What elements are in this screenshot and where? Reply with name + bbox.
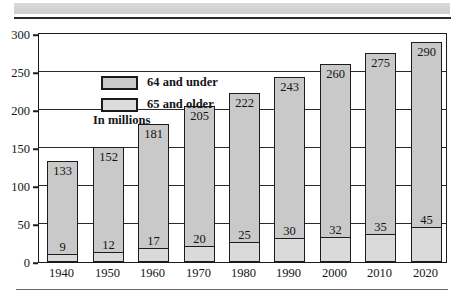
bar-value-older-2020: 45 bbox=[411, 214, 442, 227]
bar-segment-older-2000[interactable] bbox=[320, 238, 351, 262]
legend-swatch-icon-64-and-under bbox=[101, 76, 138, 90]
x-tick-label-2010: 2010 bbox=[357, 266, 403, 280]
bar-segment-under-1960[interactable]: 181 bbox=[138, 124, 169, 249]
bar-segment-older-1990[interactable] bbox=[274, 239, 305, 262]
bar-value-older-2000: 32 bbox=[320, 224, 351, 237]
legend-units-note: In millions bbox=[93, 113, 150, 128]
chart-plot-area: 1339152121811720520222252433026032275352… bbox=[38, 33, 447, 263]
bar-1940[interactable]: 1339 bbox=[47, 161, 78, 262]
bar-segment-under-2000[interactable]: 260 bbox=[320, 64, 351, 237]
bar-segment-older-1940[interactable] bbox=[47, 255, 78, 262]
bar-segment-under-2020[interactable]: 290 bbox=[411, 42, 442, 228]
bar-2020[interactable]: 29045 bbox=[411, 42, 442, 262]
bar-1980[interactable]: 22225 bbox=[229, 93, 260, 262]
bar-value-older-1960: 17 bbox=[138, 235, 169, 248]
bar-segment-under-2010[interactable]: 275 bbox=[365, 53, 396, 235]
bar-2000[interactable]: 26032 bbox=[320, 64, 351, 262]
legend-item-64-and-under: 64 and under bbox=[101, 74, 281, 94]
bar-value-older-1990: 30 bbox=[274, 225, 305, 238]
bar-segment-older-2020[interactable] bbox=[411, 228, 442, 262]
bar-1960[interactable]: 18117 bbox=[138, 124, 169, 262]
y-tick-label-250: 250 bbox=[0, 66, 30, 81]
y-axis: 050100150200250300 bbox=[0, 33, 38, 264]
bar-segment-older-1970[interactable] bbox=[184, 247, 215, 262]
x-tick-label-2020: 2020 bbox=[403, 266, 449, 280]
bar-segment-under-1950[interactable]: 152 bbox=[93, 147, 124, 253]
y-tick-label-50: 50 bbox=[0, 218, 30, 233]
y-tick-label-0: 0 bbox=[0, 256, 30, 271]
x-tick-label-1970: 1970 bbox=[176, 266, 222, 280]
bar-segment-older-2010[interactable] bbox=[365, 235, 396, 262]
bar-segment-older-1950[interactable] bbox=[93, 253, 124, 262]
bar-segment-under-1970[interactable]: 205 bbox=[184, 106, 215, 247]
y-tick-label-200: 200 bbox=[0, 104, 30, 119]
bar-1950[interactable]: 15212 bbox=[93, 146, 124, 262]
bar-value-total-2010: 275 bbox=[366, 57, 395, 70]
header-rule bbox=[14, 17, 451, 19]
legend-label-65-and-older: 65 and older bbox=[147, 97, 214, 112]
bar-2010[interactable]: 27535 bbox=[365, 53, 396, 262]
bar-segment-older-1960[interactable] bbox=[138, 249, 169, 262]
bar-value-older-1940: 9 bbox=[47, 241, 78, 254]
bar-value-total-1950: 152 bbox=[94, 151, 123, 164]
x-tick-label-1980: 1980 bbox=[221, 266, 267, 280]
header-decorative-strip bbox=[14, 3, 450, 14]
bar-value-total-1940: 133 bbox=[48, 165, 77, 178]
x-tick-label-1960: 1960 bbox=[130, 266, 176, 280]
bar-value-total-2020: 290 bbox=[412, 46, 441, 59]
bar-value-total-1960: 181 bbox=[139, 128, 168, 141]
bar-value-older-1980: 25 bbox=[229, 229, 260, 242]
bar-value-total-2000: 260 bbox=[321, 68, 350, 81]
bar-value-older-1950: 12 bbox=[93, 239, 124, 252]
bar-1970[interactable]: 20520 bbox=[184, 106, 215, 262]
y-tick-label-100: 100 bbox=[0, 180, 30, 195]
bar-segment-older-1980[interactable] bbox=[229, 243, 260, 262]
x-tick-label-1940: 1940 bbox=[39, 266, 85, 280]
y-tick-label-150: 150 bbox=[0, 142, 30, 157]
chart-legend: 64 and under 65 and older bbox=[101, 74, 281, 118]
legend-swatch-icon-65-and-older bbox=[101, 98, 138, 112]
legend-label-64-and-under: 64 and under bbox=[147, 75, 218, 90]
bar-value-older-2010: 35 bbox=[365, 221, 396, 234]
bar-value-older-1970: 20 bbox=[184, 233, 215, 246]
x-tick-label-2000: 2000 bbox=[312, 266, 358, 280]
x-tick-label-1990: 1990 bbox=[266, 266, 312, 280]
y-tick-label-300: 300 bbox=[0, 28, 30, 43]
footer-rule bbox=[16, 289, 448, 290]
x-tick-label-1950: 1950 bbox=[85, 266, 131, 280]
